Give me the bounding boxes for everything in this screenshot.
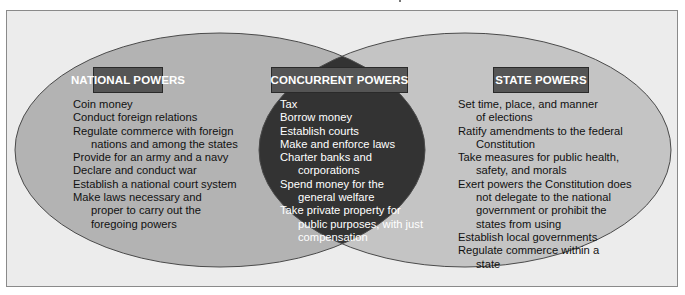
concurrent-powers-header: CONCURRENT POWERS <box>271 67 408 93</box>
national-item: Declare and conduct war <box>73 164 238 177</box>
state-powers-list: Set time, place, and manner of elections… <box>458 98 623 271</box>
concurrent-powers-list: Tax Borrow money Establish courts Make a… <box>280 98 430 244</box>
state-powers-header: STATE POWERS <box>493 67 589 93</box>
national-item: Establish a national court system <box>73 178 238 191</box>
concurrent-powers-title: CONCURRENT POWERS <box>271 74 409 86</box>
state-item: Take measures for public health, safety,… <box>458 151 623 178</box>
national-item: Provide for an army and a navy <box>73 151 238 164</box>
concurrent-item: Spend money for the general welfare <box>280 178 408 205</box>
concurrent-item: Take private property for public purpose… <box>280 204 423 244</box>
concurrent-item: Tax <box>280 98 430 111</box>
concurrent-item: Establish courts <box>280 125 430 138</box>
national-item: Conduct foreign relations <box>73 111 238 124</box>
state-powers-title: STATE POWERS <box>495 74 587 86</box>
state-item: Regulate commerce within a state <box>458 244 606 271</box>
concurrent-item: Make and enforce laws <box>280 138 430 151</box>
national-item: Regulate commerce with foreign nations a… <box>73 125 238 152</box>
concurrent-item: Borrow money <box>280 111 430 124</box>
national-item: Make laws necessary and proper to carry … <box>73 191 226 231</box>
national-item: Coin money <box>73 98 238 111</box>
state-item: Exert powers the Constitution does not d… <box>458 178 636 231</box>
concurrent-item: Charter banks and corporations <box>280 151 430 178</box>
state-item: Establish local governments <box>458 231 623 244</box>
state-item: Ratify amendments to the federal Constit… <box>458 125 626 152</box>
national-powers-list: Coin money Conduct foreign relations Reg… <box>73 98 238 231</box>
national-powers-header: NATIONAL POWERS <box>93 67 163 93</box>
national-powers-title: NATIONAL POWERS <box>71 74 185 86</box>
state-item: Set time, place, and manner of elections <box>458 98 606 125</box>
